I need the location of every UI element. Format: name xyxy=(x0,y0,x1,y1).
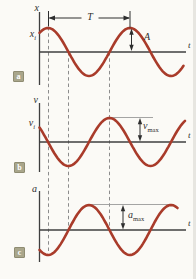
panel-c-axes xyxy=(39,191,186,262)
panel-c-tag: c xyxy=(14,247,25,258)
page-edge-shadow xyxy=(193,0,196,279)
max-acceleration-arrow xyxy=(121,205,125,230)
panel-b-taxis-title: t xyxy=(188,131,191,140)
panel-c-taxis-title: t xyxy=(188,219,191,228)
waveform-plot xyxy=(0,0,196,279)
panel-a-yaxis-title: x xyxy=(35,3,39,13)
dashed-guide-lines xyxy=(49,27,110,253)
panel-c-yaxis-title: a xyxy=(32,184,37,194)
amplitude-label: A xyxy=(144,32,150,42)
peak-reference-lines xyxy=(89,118,174,205)
panel-b-yaxis-title: v xyxy=(34,95,38,105)
amplitude-arrow xyxy=(129,29,133,52)
max-acceleration-label: amax xyxy=(128,210,144,223)
panel-b-tag: b xyxy=(14,162,25,173)
panel-a-tag: a xyxy=(13,71,24,82)
shm-graphs-figure: x xi T A t a v vi vmax t b a amax t c xyxy=(0,0,196,279)
period-label: T xyxy=(87,12,93,22)
panel-b-initial-value-label: vi xyxy=(29,118,35,131)
panel-a-taxis-title: t xyxy=(188,41,191,50)
panel-a-initial-value-label: xi xyxy=(30,29,36,42)
max-velocity-arrow xyxy=(138,118,142,142)
max-velocity-label: vmax xyxy=(143,121,159,134)
